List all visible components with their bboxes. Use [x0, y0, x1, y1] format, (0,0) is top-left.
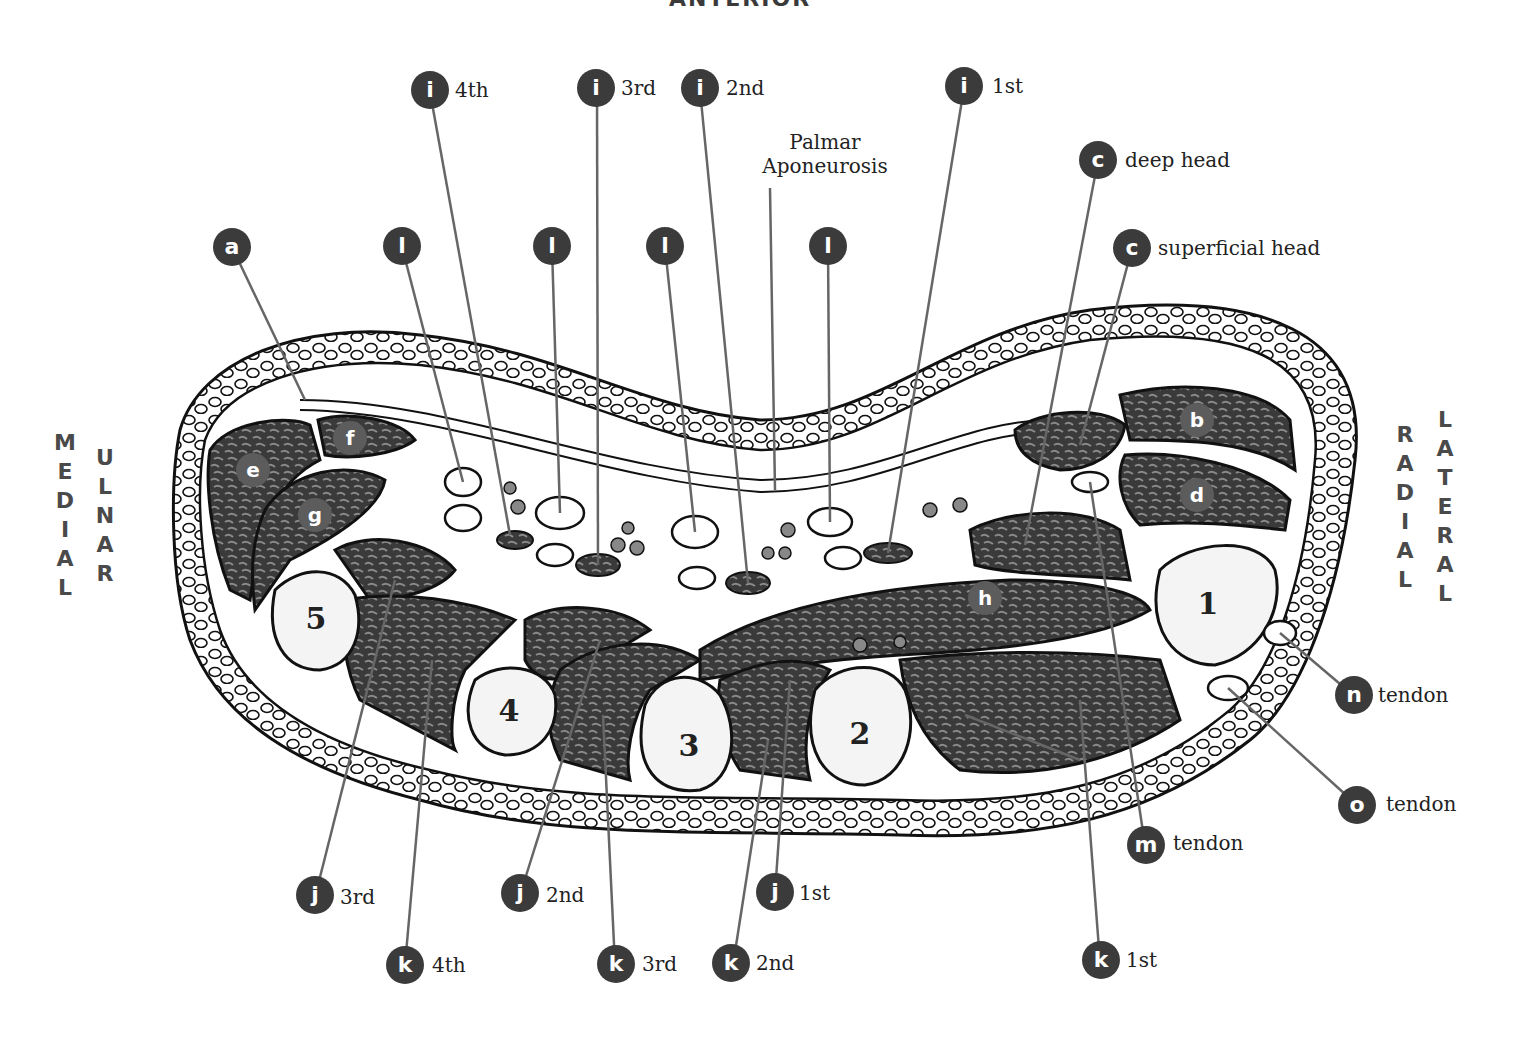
label-c-deep-text: deep head [1125, 148, 1230, 172]
orientation-radial: RADIAL [1393, 420, 1417, 594]
label-n-badge: n [1335, 676, 1373, 714]
orientation-medial: MEDIAL [53, 428, 77, 602]
hand-cross-section-diagram: ANTERIOR MEDIAL ULNAR RADIAL LATERAL Pal… [0, 0, 1514, 1040]
metacarpal-5-number: 5 [306, 601, 327, 636]
orientation-anterior: ANTERIOR [669, 0, 811, 11]
label-c-sup-badge: c [1113, 229, 1151, 267]
label-c-deep-badge: c [1079, 141, 1117, 179]
label-a-badge: a [213, 228, 251, 266]
label-j1-text: 1st [799, 881, 830, 905]
label-j2-text: 2nd [546, 883, 584, 907]
label-k2-text: 2nd [756, 951, 794, 975]
muscle-c-deep [970, 513, 1130, 580]
label-d-badge: d [1180, 478, 1214, 512]
label-j1-badge: j [756, 873, 794, 911]
label-k1-text: 1st [1126, 948, 1157, 972]
metacarpal-2-number: 2 [850, 716, 871, 751]
label-o-badge: o [1338, 786, 1376, 824]
label-l3-badge: l [646, 227, 684, 265]
label-o-text: tendon [1386, 792, 1456, 816]
label-k4-text: 4th [432, 953, 466, 977]
label-k3-text: 3rd [642, 952, 677, 976]
palmar-aponeurosis-label: Palmar Aponeurosis [740, 130, 910, 178]
label-e-badge: e [236, 453, 270, 487]
label-i4-text: 4th [455, 78, 489, 102]
label-j2-badge: j [501, 874, 539, 912]
label-l4-badge: l [809, 227, 847, 265]
label-m-badge: m [1127, 826, 1165, 864]
label-g-badge: g [298, 498, 332, 532]
label-n-text: tendon [1378, 683, 1448, 707]
palmar-aponeurosis-line1: Palmar [740, 130, 910, 154]
label-f-badge: f [333, 421, 367, 455]
metacarpal-1-number: 1 [1198, 586, 1219, 621]
label-i2-badge: i [681, 69, 719, 107]
palmar-aponeurosis-line2: Aponeurosis [740, 154, 910, 178]
label-i4-badge: i [411, 71, 449, 109]
label-k4-badge: k [386, 946, 424, 984]
label-i2-text: 2nd [726, 76, 764, 100]
label-m-text: tendon [1173, 831, 1243, 855]
label-i1-text: 1st [992, 74, 1023, 98]
metacarpal-3-number: 3 [679, 728, 700, 763]
label-j3-badge: j [296, 876, 334, 914]
label-j3-text: 3rd [340, 885, 375, 909]
label-l2-badge: l [533, 227, 571, 265]
label-h-badge: h [968, 581, 1002, 615]
label-i3-badge: i [577, 69, 615, 107]
label-k2-badge: k [712, 944, 750, 982]
label-i1-badge: i [945, 67, 983, 105]
label-l1-badge: l [383, 227, 421, 265]
metacarpal-4-number: 4 [499, 693, 520, 728]
label-k1-badge: k [1082, 941, 1120, 979]
orientation-lateral: LATERAL [1433, 405, 1457, 608]
label-k3-badge: k [597, 945, 635, 983]
orientation-ulnar: ULNAR [93, 443, 117, 588]
label-c-sup-text: superficial head [1158, 236, 1320, 260]
label-b-badge: b [1180, 403, 1214, 437]
label-i3-text: 3rd [621, 76, 656, 100]
